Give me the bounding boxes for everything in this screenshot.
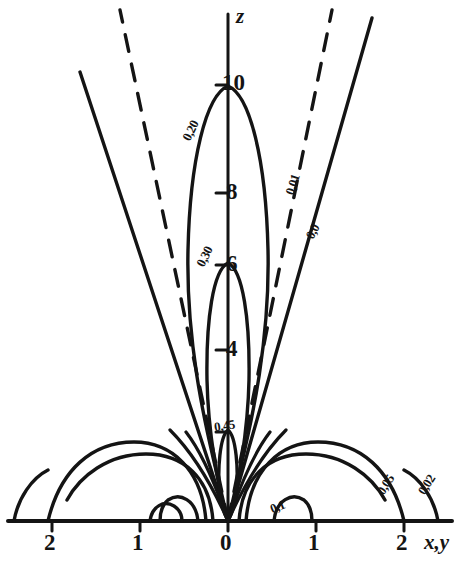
z-tick-label-8: 8: [226, 180, 238, 203]
x-tick-label-2: 2: [396, 531, 408, 554]
z-tick-label-4: 4: [226, 337, 238, 360]
contour-label-0-45: 0,45: [213, 418, 235, 434]
x-tick-label-0: 0: [220, 531, 232, 554]
z-tick-label-6: 6: [226, 252, 238, 275]
z-tick-label-10: 10: [222, 71, 245, 94]
contour-0-05-left: [67, 454, 213, 521]
contour-small-left: [150, 504, 182, 521]
x-axis-label: x,y: [424, 532, 449, 553]
z-axis-label: z: [236, 6, 244, 27]
contour-0-02-left: [48, 442, 206, 521]
x-tick-label--2: 2: [44, 531, 56, 554]
contour-figure: z 10 8 6 4 2 2 1 0 1 2 x,y 0,20 0,30 0,4…: [0, 0, 472, 565]
x-tick-label-1: 1: [308, 531, 320, 554]
contour-0-02-left-outer: [14, 470, 48, 521]
x-tick-label--1: 1: [132, 531, 144, 554]
